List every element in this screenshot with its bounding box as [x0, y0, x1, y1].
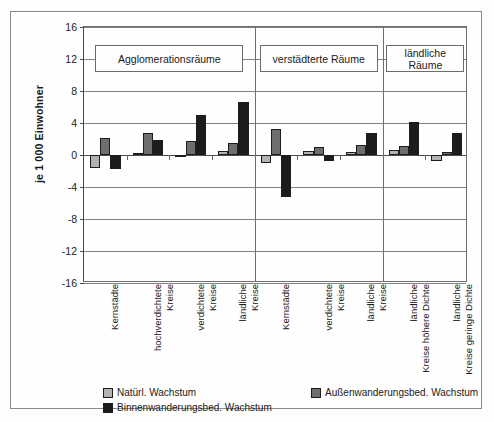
- figure-root: je 1 000 Einwohner 1612840-4-8-12-16 Agg…: [0, 0, 494, 422]
- x-axis-tick-mark: [212, 155, 213, 160]
- x-axis-tick-mark: [127, 155, 128, 160]
- bar: [399, 146, 409, 155]
- y-axis-tick-label: 0: [71, 149, 77, 161]
- bar: [110, 155, 120, 169]
- bar: [409, 122, 419, 155]
- bar: [175, 155, 185, 157]
- bar: [324, 155, 334, 161]
- x-axis-category-label: hochverdichtete Kreise: [152, 284, 175, 380]
- x-axis-tick-mark: [169, 155, 170, 160]
- y-axis-tick-label: -4: [68, 181, 77, 193]
- bar: [366, 133, 376, 155]
- bar: [281, 155, 291, 197]
- y-axis-tick-mark: [80, 91, 84, 92]
- gridline: [84, 251, 466, 252]
- bar: [228, 143, 238, 155]
- bar: [100, 138, 110, 155]
- bar: [133, 153, 143, 155]
- x-axis-category-label: verdichtete Kreise: [323, 284, 346, 380]
- legend-swatch-icon: [311, 388, 321, 398]
- x-axis-category-label: ländliche Kreise: [365, 284, 388, 380]
- bar: [90, 155, 100, 168]
- bar: [346, 152, 356, 155]
- gridline: [84, 27, 466, 28]
- y-axis-tick-mark: [80, 155, 84, 156]
- group-separator: [255, 27, 256, 281]
- legend-label: Außenwanderungsbed. Wachstum: [325, 387, 478, 398]
- bar: [153, 140, 163, 155]
- legend-swatch-icon: [103, 388, 113, 398]
- y-axis-tick-label: -8: [68, 213, 77, 225]
- bar: [143, 133, 153, 155]
- bar: [442, 152, 452, 155]
- bar: [303, 151, 313, 155]
- y-axis-title: je 1 000 Einwohner: [33, 54, 45, 214]
- x-axis-category-label: ländliche Kreise geringe Dichte: [451, 284, 474, 380]
- bar: [452, 133, 462, 155]
- x-axis-category-label: ländliche Kreise: [237, 284, 260, 380]
- legend-label: Natürl. Wachstum: [117, 387, 196, 398]
- y-axis-tick-label: 4: [71, 117, 77, 129]
- legend-item: Außenwanderungsbed. Wachstum: [311, 387, 478, 398]
- x-axis-category-label: Kernstädte: [280, 284, 292, 380]
- x-axis-tick-mark: [340, 155, 341, 160]
- bar: [356, 145, 366, 155]
- legend-label: Binnenwanderungsbed. Wachstum: [117, 402, 272, 413]
- x-axis-category-label: Kernstädte: [109, 284, 121, 380]
- x-axis-category-label: verdichtete Kreise: [195, 284, 218, 380]
- y-axis-tick-mark: [80, 59, 84, 60]
- chart-frame: je 1 000 Einwohner 1612840-4-8-12-16 Agg…: [10, 11, 482, 409]
- legend-item: Binnenwanderungsbed. Wachstum: [103, 402, 272, 413]
- x-axis-tick-mark: [297, 155, 298, 160]
- y-axis-tick-mark: [80, 123, 84, 124]
- gridline: [84, 187, 466, 188]
- x-axis-category-label: ländliche Kreise höhere Dichte: [408, 284, 431, 380]
- y-axis-tick-label: 8: [71, 85, 77, 97]
- group-separator: [383, 27, 384, 281]
- plot-area: 1612840-4-8-12-16 Agglomerationsräumever…: [83, 26, 467, 282]
- y-axis-tick-mark: [80, 251, 84, 252]
- y-axis-tick-mark: [80, 219, 84, 220]
- bar: [314, 147, 324, 155]
- legend-swatch-icon: [103, 403, 113, 413]
- bar: [431, 155, 441, 161]
- y-axis-tick-label: -12: [62, 245, 77, 257]
- x-axis-category-labels: Kernstädtehochverdichtete Kreiseverdicht…: [83, 284, 467, 384]
- chart-legend: Natürl. WachstumAußenwanderungsbed. Wach…: [33, 387, 473, 417]
- group-title-box: Agglomerationsräume: [95, 45, 243, 72]
- gridline: [84, 155, 466, 156]
- bar: [261, 155, 271, 163]
- group-title-box: verstädterte Räume: [260, 45, 378, 72]
- y-axis-tick-mark: [80, 187, 84, 188]
- bar: [238, 102, 248, 155]
- group-title-box: ländliche Räume: [386, 45, 464, 72]
- y-axis-tick-label: -16: [62, 277, 77, 289]
- gridline: [84, 91, 466, 92]
- y-axis-tick-mark: [80, 27, 84, 28]
- legend-item: Natürl. Wachstum: [103, 387, 196, 398]
- y-axis-tick-label: 16: [65, 21, 77, 33]
- bar: [218, 151, 228, 155]
- bar: [196, 115, 206, 155]
- bar: [271, 129, 281, 155]
- x-axis-tick-mark: [425, 155, 426, 160]
- bar: [389, 150, 399, 155]
- bar: [186, 141, 196, 155]
- gridline: [84, 219, 466, 220]
- y-axis-tick-label: 12: [65, 53, 77, 65]
